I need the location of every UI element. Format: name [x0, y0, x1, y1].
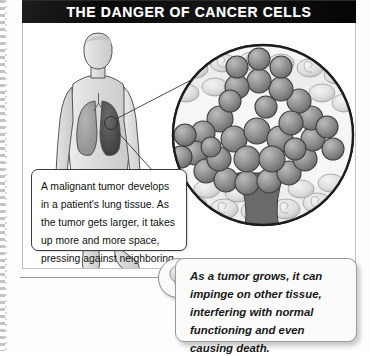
callout-text: A malignant tumor develops in a patient'…	[41, 181, 175, 269]
callout-text-box: A malignant tumor develops in a patient'…	[31, 169, 187, 251]
tip-text: As a tumor grows, it can impinge on othe…	[190, 270, 322, 354]
scanned-page-perforation-edge-inner	[5, 0, 7, 351]
tip-leader-line	[20, 277, 160, 278]
tip-text-box: As a tumor grows, it can impinge on othe…	[175, 258, 357, 342]
page-title: THE DANGER OF CANCER CELLS	[66, 4, 311, 20]
title-bar: THE DANGER OF CANCER CELLS	[22, 0, 356, 23]
illustration-frame: A malignant tumor develops in a patient'…	[22, 23, 356, 269]
magnified-lung-tissue-tumor-cells	[170, 45, 356, 231]
